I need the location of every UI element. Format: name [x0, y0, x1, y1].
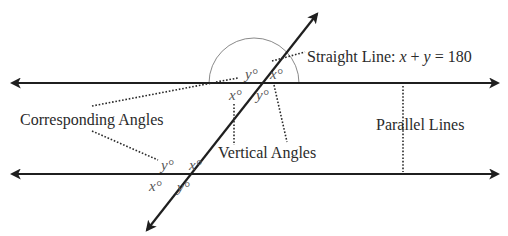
angle-bottom-upper-right: x° — [188, 157, 202, 173]
transversal-line — [147, 14, 317, 230]
straight-line-plus: + — [407, 48, 424, 65]
corresponding-angles-label: Corresponding Angles — [20, 111, 164, 129]
angle-top-lower-left: x° — [228, 87, 242, 103]
straight-line-prefix: Straight Line: — [307, 48, 399, 66]
angle-bottom-lower-right: y° — [175, 179, 190, 195]
angle-relationships-diagram: y° x° x° y° y° x° x° y° Straight Line: x… — [0, 0, 508, 236]
straight-line-rest: = 180 — [431, 48, 472, 65]
corresponding-leader-bottom — [92, 131, 158, 160]
corresponding-leader-top — [92, 83, 212, 106]
straight-line-label: Straight Line: x + y = 180 — [307, 48, 472, 66]
angle-top-lower-right: y° — [254, 87, 269, 103]
vertical-angles-label: Vertical Angles — [218, 144, 316, 162]
parallel-lines-label: Parallel Lines — [376, 116, 464, 133]
angle-top-upper-left: y° — [243, 66, 258, 82]
straight-line-x: x — [398, 48, 406, 65]
angle-top-upper-right: x° — [269, 66, 283, 82]
corresponding-leader-top-inner — [216, 78, 238, 82]
angle-bottom-lower-left: x° — [148, 178, 162, 194]
vertical-leader-right — [274, 85, 287, 142]
angle-bottom-upper-left: y° — [159, 157, 174, 173]
